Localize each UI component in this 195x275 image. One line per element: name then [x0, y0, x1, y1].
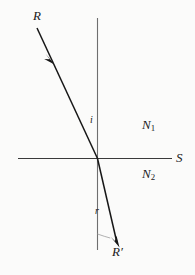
medium-upper-letter: N [142, 117, 151, 132]
incident-ray-label: R [33, 9, 41, 22]
medium-upper-label: N1 [142, 118, 155, 133]
optics-refraction-figure: R R′ i r S N1 N2 [0, 0, 195, 275]
angle-of-refraction-arc [98, 234, 111, 238]
medium-lower-letter: N [142, 166, 151, 181]
surface-label: S [176, 151, 183, 164]
refracted-ray-line [98, 159, 118, 244]
incident-ray-line [37, 28, 98, 159]
medium-upper-subscript: 1 [151, 123, 155, 133]
angle-of-incidence-label: i [90, 115, 93, 125]
refracted-ray-prime-mark: ′ [120, 244, 123, 259]
refracted-ray-letter: R [112, 244, 120, 259]
figure-canvas [0, 0, 195, 275]
angle-of-refraction-label: r [95, 206, 99, 216]
refracted-ray-label: R′ [112, 245, 123, 258]
medium-lower-label: N2 [142, 167, 155, 182]
medium-lower-subscript: 2 [151, 172, 155, 182]
